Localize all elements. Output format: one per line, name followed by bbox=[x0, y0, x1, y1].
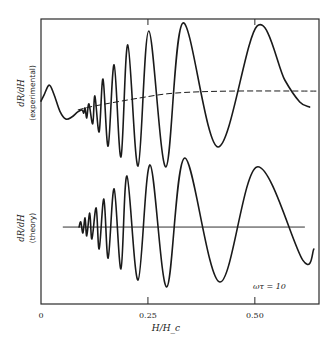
x-tick-labels: 00.250.50 bbox=[38, 311, 263, 320]
series-experimental bbox=[41, 23, 310, 167]
y-axis-label-experimental: dR/dH bbox=[16, 79, 26, 107]
x-tick-label: 0 bbox=[38, 311, 43, 320]
y-axis-label-theory: dR/dH bbox=[16, 214, 26, 242]
x-tick-label: 0.25 bbox=[139, 311, 157, 320]
chart: 00.250.50 H/H_c dR/dH (experimental) dR/… bbox=[0, 0, 333, 349]
y-axis-sublabel-theory: (theory) bbox=[28, 213, 37, 243]
x-axis-label: H/H_c bbox=[151, 323, 180, 334]
series-group bbox=[41, 23, 318, 287]
omega-tau-annotation: ωτ = 10 bbox=[253, 282, 286, 291]
series-experimental-background bbox=[78, 91, 318, 110]
x-tick-label: 0.50 bbox=[246, 311, 264, 320]
y-axis-sublabel-experimental: (experimental) bbox=[28, 65, 37, 121]
series-theory bbox=[79, 158, 314, 287]
